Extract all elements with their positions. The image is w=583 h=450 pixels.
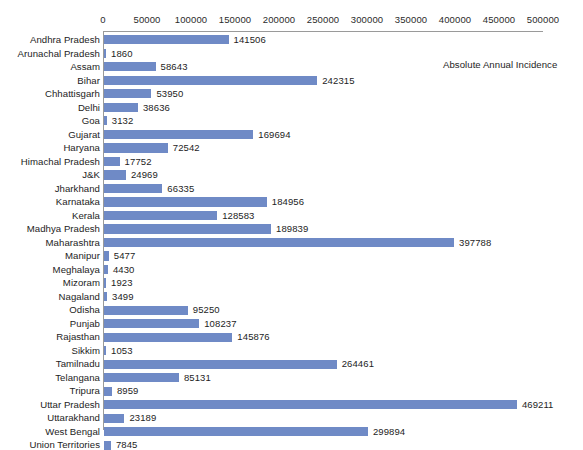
- category-label: Punjab: [70, 317, 100, 331]
- bar-row: J&K24969: [0, 168, 583, 182]
- bar[interactable]: [104, 89, 151, 98]
- bar-value-label: 8959: [117, 384, 139, 398]
- bar[interactable]: [104, 170, 126, 179]
- bar[interactable]: [104, 35, 229, 44]
- category-label: Manipur: [65, 249, 100, 263]
- category-label: Haryana: [63, 141, 100, 155]
- bar-row: Bihar242315: [0, 74, 583, 88]
- bar[interactable]: [104, 387, 112, 396]
- bar-row: Uttarakhand23189: [0, 411, 583, 425]
- bar-row: Tamilnadu264461: [0, 357, 583, 371]
- category-label: Tamilnadu: [56, 357, 100, 371]
- bar-row: Himachal Pradesh17752: [0, 155, 583, 169]
- bar[interactable]: [104, 265, 108, 274]
- bar-row: Arunachal Pradesh1860: [0, 47, 583, 61]
- bar[interactable]: [104, 333, 232, 342]
- bar[interactable]: [104, 76, 317, 85]
- bar-row: Odisha95250: [0, 303, 583, 317]
- bar[interactable]: [104, 116, 107, 125]
- bar-value-label: 7845: [116, 438, 138, 450]
- bar[interactable]: [104, 427, 368, 436]
- category-label: Rajasthan: [56, 330, 100, 344]
- bar-value-label: 1860: [111, 47, 133, 61]
- bar-row: Meghalaya4430: [0, 263, 583, 277]
- bar[interactable]: [104, 400, 517, 409]
- bar[interactable]: [104, 238, 454, 247]
- bar-row: Manipur5477: [0, 249, 583, 263]
- bar-value-label: 128583: [222, 209, 254, 223]
- x-axis-tick-2: 100000: [175, 14, 207, 25]
- bar[interactable]: [104, 373, 179, 382]
- bar-value-label: 3499: [112, 290, 134, 304]
- bar[interactable]: [104, 441, 111, 450]
- bar-row: Haryana72542: [0, 141, 583, 155]
- x-axis-tick-3: 150000: [219, 14, 251, 25]
- x-axis-tick-10: 500000: [527, 14, 559, 25]
- bar-value-label: 5477: [114, 249, 136, 263]
- bar[interactable]: [104, 49, 106, 58]
- category-label: West Bengal: [45, 425, 100, 439]
- x-axis-tick-0: 0: [100, 14, 105, 25]
- category-label: Kerala: [72, 209, 100, 223]
- bar-value-label: 23189: [129, 411, 156, 425]
- bar-row: West Bengal299894: [0, 425, 583, 439]
- bar-row: Kerala128583: [0, 209, 583, 223]
- category-label: Telangana: [55, 371, 100, 385]
- bar[interactable]: [104, 197, 267, 206]
- category-label: Odisha: [69, 303, 100, 317]
- bar[interactable]: [104, 251, 109, 260]
- x-axis-tick-1: 50000: [134, 14, 161, 25]
- bar-row: Karnataka184956: [0, 195, 583, 209]
- bar-value-label: 58643: [161, 60, 188, 74]
- bar-value-label: 169694: [258, 128, 290, 142]
- category-label: Gujarat: [68, 128, 100, 142]
- category-label: Andhra Pradesh: [30, 33, 100, 47]
- category-label: Tripura: [70, 384, 100, 398]
- x-axis-tick-5: 250000: [307, 14, 339, 25]
- category-label: J&K: [82, 168, 100, 182]
- bar[interactable]: [104, 224, 271, 233]
- x-axis-tick-6: 300000: [351, 14, 383, 25]
- bar[interactable]: [104, 360, 337, 369]
- bar-value-label: 184956: [272, 195, 304, 209]
- bar[interactable]: [104, 130, 253, 139]
- bar-chart: 0500001000001500002000002500003000003500…: [0, 0, 583, 450]
- bar[interactable]: [104, 292, 107, 301]
- bar[interactable]: [104, 157, 120, 166]
- bar-row: Nagaland3499: [0, 290, 583, 304]
- bar-value-label: 299894: [373, 425, 405, 439]
- bar[interactable]: [104, 278, 106, 287]
- bar-value-label: 397788: [459, 236, 491, 250]
- bar-value-label: 38636: [143, 101, 170, 115]
- bar-value-label: 145876: [237, 330, 269, 344]
- bar-row: Madhya Pradesh189839: [0, 222, 583, 236]
- bar[interactable]: [104, 414, 124, 423]
- category-label: Sikkim: [71, 344, 100, 358]
- bar[interactable]: [104, 211, 217, 220]
- bar-value-label: 264461: [342, 357, 374, 371]
- bar-row: Gujarat169694: [0, 128, 583, 142]
- category-label: Jharkhand: [55, 182, 100, 196]
- bar-value-label: 469211: [522, 398, 554, 412]
- bar-row: Rajasthan145876: [0, 330, 583, 344]
- x-axis-tick-9: 450000: [483, 14, 515, 25]
- bar[interactable]: [104, 319, 199, 328]
- bar-row: Uttar Pradesh469211: [0, 398, 583, 412]
- bar[interactable]: [104, 346, 106, 355]
- bar-value-label: 141506: [234, 33, 266, 47]
- category-label: Madhya Pradesh: [27, 222, 100, 236]
- bar-value-label: 189839: [276, 222, 308, 236]
- bar-value-label: 1923: [111, 276, 133, 290]
- bar[interactable]: [104, 103, 138, 112]
- bar-value-label: 17752: [125, 155, 152, 169]
- category-label: Nagaland: [59, 290, 100, 304]
- category-label: Mizoram: [63, 276, 100, 290]
- plot-area: Andhra Pradesh141506Arunachal Pradesh186…: [0, 33, 583, 429]
- bar[interactable]: [104, 62, 156, 71]
- bar[interactable]: [104, 143, 168, 152]
- bar-value-label: 1053: [111, 344, 133, 358]
- bar[interactable]: [104, 184, 162, 193]
- category-label: Arunachal Pradesh: [18, 47, 100, 61]
- x-axis-line: [103, 31, 543, 32]
- bar[interactable]: [104, 306, 188, 315]
